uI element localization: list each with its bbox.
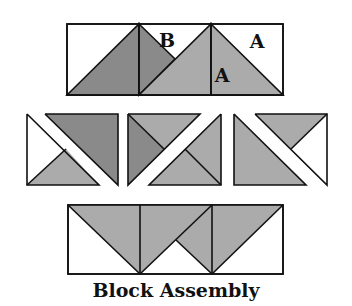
exploded-block-3 xyxy=(234,114,327,185)
exploded-block-1 xyxy=(27,114,118,185)
diagram-title: Block Assembly xyxy=(0,279,352,301)
piece-label-b: B xyxy=(159,29,175,51)
exploded-block-2 xyxy=(128,114,221,185)
bottom-strip xyxy=(68,205,283,274)
piece-label-a: A xyxy=(249,30,265,52)
piece-label-a: A xyxy=(214,64,230,86)
top-strip: BAA xyxy=(67,24,283,95)
block-assembly-diagram: BAA xyxy=(0,0,352,306)
